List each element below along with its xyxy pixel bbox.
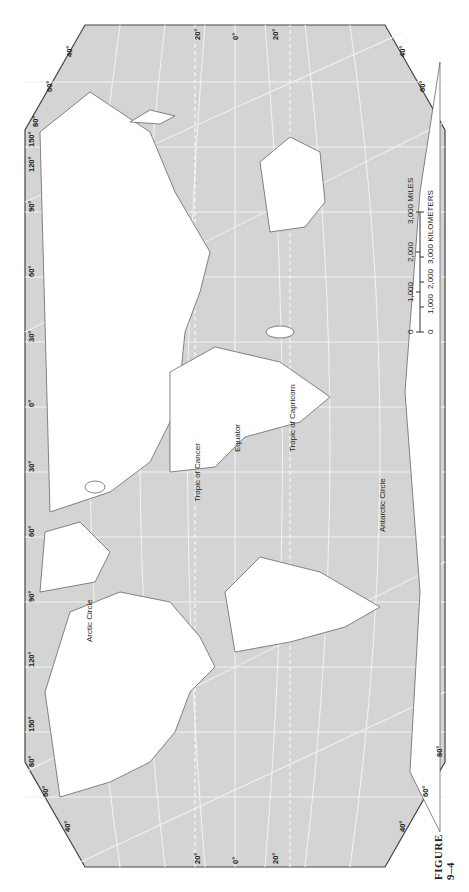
figure-caption: FIGURE 9–4: [432, 834, 456, 880]
svg-text:80°: 80°: [435, 746, 444, 757]
svg-text:0°: 0°: [27, 400, 36, 407]
svg-text:40°: 40°: [63, 821, 72, 832]
scale-miles-3000: 3,000 MILES: [406, 178, 415, 224]
svg-text:60°: 60°: [45, 81, 54, 92]
svg-text:60°: 60°: [41, 786, 50, 797]
edge-label-left-1: 20°: [193, 853, 202, 864]
edge-label-left-3: 20°: [271, 853, 280, 864]
scale-km-1000: 1,000: [426, 293, 435, 314]
map-figure: Arctic Circle Tropic of Cancer Equator T…: [0, 0, 469, 892]
svg-text:40°: 40°: [398, 46, 407, 57]
scale-km-3000: 3,000 KILOMETERS: [426, 190, 435, 264]
svg-text:90°: 90°: [27, 201, 36, 212]
scale-miles-0: 0: [406, 329, 415, 334]
svg-text:60°: 60°: [27, 526, 36, 537]
svg-text:30°: 30°: [27, 331, 36, 342]
scale-miles-2000: 2,000: [406, 241, 415, 262]
svg-text:30°: 30°: [27, 461, 36, 472]
scale-miles-1000: 1,000: [406, 281, 415, 302]
svg-text:40°: 40°: [65, 46, 74, 57]
scale-km-0: 0: [426, 329, 435, 334]
tropic-of-cancer-label: Tropic of Cancer: [193, 443, 202, 502]
svg-text:120°: 120°: [27, 156, 36, 172]
edge-label-right-1: 20°: [193, 29, 202, 40]
world-map: Arctic Circle Tropic of Cancer Equator T…: [0, 0, 469, 892]
edge-label-right-3: 20°: [271, 29, 280, 40]
svg-text:40°: 40°: [398, 821, 407, 832]
svg-text:60°: 60°: [421, 786, 430, 797]
svg-text:90°: 90°: [27, 591, 36, 602]
edge-label-right-2: 0°: [231, 33, 240, 40]
svg-text:60°: 60°: [418, 81, 427, 92]
svg-text:150°: 150°: [27, 131, 36, 147]
antarctic-circle-label: Antarctic Circle: [378, 478, 387, 532]
svg-text:80°: 80°: [27, 756, 36, 767]
svg-text:80°: 80°: [31, 116, 40, 127]
tropic-of-capricorn-label: Tropic of Capricorn: [288, 384, 297, 452]
scale-km-2000: 2,000: [426, 268, 435, 289]
arctic-circle-label: Arctic Circle: [85, 599, 94, 642]
svg-text:150°: 150°: [27, 716, 36, 732]
svg-text:60°: 60°: [27, 266, 36, 277]
equator-label: Equator: [233, 424, 242, 452]
svg-text:120°: 120°: [27, 651, 36, 667]
edge-label-left-2: 0°: [231, 857, 240, 864]
